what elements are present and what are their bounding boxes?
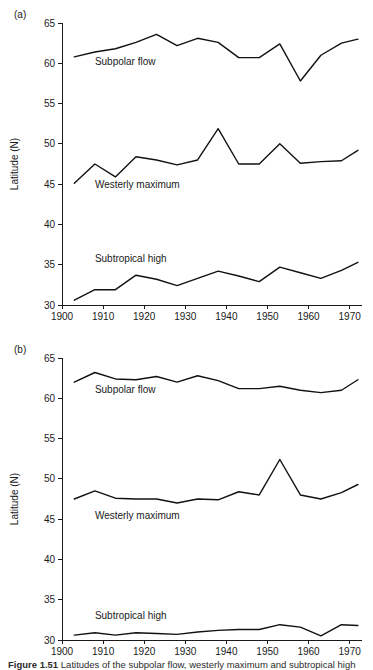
figure-caption-text: Latitudes of the subpolar flow, westerly… [58,659,355,670]
y-tick-label: 65 [44,18,56,29]
panel-tag: (a) [14,9,26,20]
figure-container: (a)3035404550556065190019101920193019401… [0,0,373,670]
x-tick-label: 1910 [92,311,115,322]
y-tick-label: 55 [44,433,56,444]
y-tick-label: 55 [44,98,56,109]
y-tick-label: 40 [44,554,56,565]
y-tick-label: 45 [44,179,56,190]
y-tick-label: 35 [44,594,56,605]
x-tick-label: 1960 [297,311,320,322]
x-tick-label: 1950 [256,646,279,657]
y-tick-label: 60 [44,393,56,404]
y-tick-label: 30 [44,300,56,311]
y-tick-label: 40 [44,219,56,230]
figure-caption: Figure 1.51 Latitudes of the subpolar fl… [8,659,373,670]
x-tick-label: 1900 [51,311,74,322]
series-line-westerly-maximum [74,460,358,504]
figure-caption-prefix: Figure 1.51 [8,659,58,670]
series-label-subpolar-flow: Subpolar flow [95,384,156,395]
y-tick-label: 50 [44,473,56,484]
x-tick-label: 1930 [174,646,197,657]
x-tick-label: 1900 [51,646,74,657]
series-line-subtropical-high [74,625,358,636]
panel-tag: (b) [14,344,26,355]
y-axis-title: Latitude (N) [9,473,20,525]
x-tick-label: 1940 [215,311,238,322]
series-label-westerly-maximum: Westerly maximum [95,179,180,190]
series-line-subtropical-high [74,262,358,300]
series-label-subtropical-high: Subtropical high [95,610,167,621]
x-tick-label: 1920 [133,311,156,322]
x-tick-label: 1930 [174,311,197,322]
y-tick-label: 65 [44,353,56,364]
x-tick-label: 1970 [339,646,362,657]
y-tick-label: 30 [44,635,56,646]
x-tick-label: 1920 [133,646,156,657]
y-tick-label: 60 [44,58,56,69]
y-tick-label: 35 [44,259,56,270]
panel-b-svg: (b)3035404550556065190019101920193019401… [0,335,373,670]
x-tick-label: 1950 [256,311,279,322]
y-axis-title: Latitude (N) [9,138,20,190]
x-tick-label: 1940 [215,646,238,657]
x-tick-label: 1960 [297,646,320,657]
series-label-subtropical-high: Subtropical high [95,253,167,264]
chart-panel-a: (a)3035404550556065190019101920193019401… [0,0,373,335]
y-tick-label: 45 [44,514,56,525]
y-tick-label: 50 [44,138,56,149]
panel-a-svg: (a)3035404550556065190019101920193019401… [0,0,373,335]
series-label-subpolar-flow: Subpolar flow [95,56,156,67]
chart-panel-b: (b)3035404550556065190019101920193019401… [0,335,373,670]
x-tick-label: 1970 [339,311,362,322]
series-label-westerly-maximum: Westerly maximum [95,510,180,521]
series-line-westerly-maximum [74,129,358,184]
x-tick-label: 1910 [92,646,115,657]
